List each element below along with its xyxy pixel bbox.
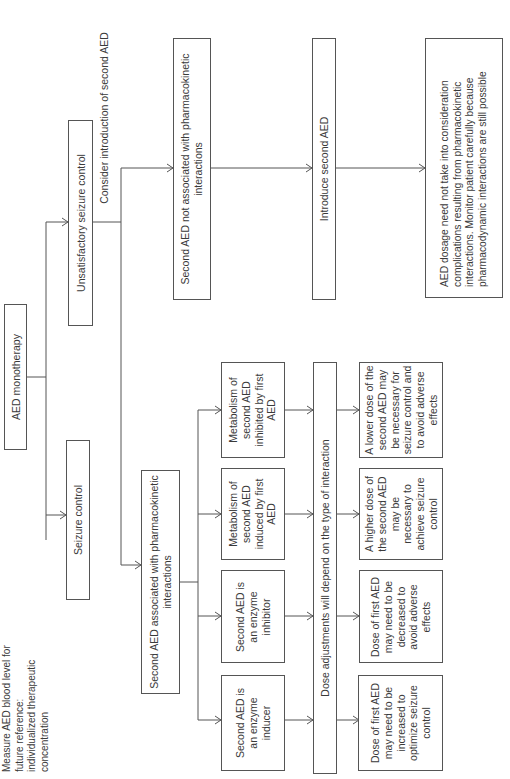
node-dose-adjustments: Dose adjustments will depend on the type… bbox=[313, 362, 337, 774]
node-outcome-increase-first-dose: Dose of first AED may need to be increas… bbox=[358, 675, 443, 771]
node-label: A higher dose of the second AED may be n… bbox=[363, 474, 440, 554]
node-label: Seizure control bbox=[72, 445, 85, 595]
node-label: AED dosage need not take into considerat… bbox=[439, 49, 489, 287]
node-type-enzyme-inducer: Second AED is an enzyme inducer bbox=[221, 675, 285, 771]
node-label: Metabolism of second AED induced by firs… bbox=[227, 470, 278, 558]
node-label: Dose of first AED may need to be decreas… bbox=[369, 577, 433, 657]
node-no-pk-interactions: Second AED not associated with pharmacok… bbox=[173, 38, 211, 300]
node-label: Second AED associated with pharmacokinet… bbox=[148, 475, 174, 690]
node-unsatisfactory-control: Unsatisfactory seizure control bbox=[68, 120, 93, 326]
node-label: AED monotherapy bbox=[9, 307, 22, 447]
node-label: Introduce second AED bbox=[318, 44, 331, 294]
node-label: Dose adjustments will depend on the type… bbox=[319, 368, 332, 768]
node-aed-monotherapy: AED monotherapy bbox=[4, 304, 27, 450]
node-dosage-no-complications: AED dosage need not take into considerat… bbox=[425, 38, 503, 298]
node-label: Second AED not associated with pharmacok… bbox=[179, 44, 205, 294]
node-label: Metabolism of second AED inhibited by fi… bbox=[227, 366, 278, 454]
node-pk-interactions: Second AED associated with pharmacokinet… bbox=[141, 470, 180, 694]
node-label: Second AED is an enzyme inhibitor bbox=[234, 577, 272, 657]
node-outcome-lower-second-dose: A lower dose of the second AED may be ne… bbox=[359, 362, 443, 458]
node-label: Second AED is an enzyme inducer bbox=[234, 683, 272, 763]
node-outcome-higher-second-dose: A higher dose of the second AED may be n… bbox=[359, 468, 443, 560]
node-label: Unsatisfactory seizure control bbox=[74, 123, 87, 323]
node-outcome-decrease-first-dose: Dose of first AED may need to be decreas… bbox=[359, 570, 443, 663]
node-type-enzyme-inhibitor: Second AED is an enzyme inhibitor bbox=[221, 570, 285, 663]
node-seizure-control: Seizure control bbox=[66, 440, 90, 600]
note-measure-blood-level: Measure AED blood level for future refer… bbox=[2, 640, 50, 772]
node-label: A lower dose of the second AED may be ne… bbox=[363, 365, 440, 455]
node-type-metabolism-inhibited: Metabolism of second AED inhibited by fi… bbox=[221, 362, 285, 458]
node-type-metabolism-induced: Metabolism of second AED induced by firs… bbox=[221, 468, 285, 560]
node-introduce-second-aed: Introduce second AED bbox=[312, 38, 336, 300]
edge-label-consider-second-aed: Consider introduction of second AED bbox=[97, 28, 111, 208]
node-label: Dose of first AED may need to be increas… bbox=[369, 683, 433, 763]
